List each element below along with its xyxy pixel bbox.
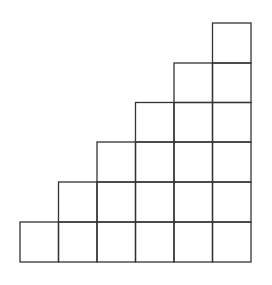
- grid-cell: [59, 222, 98, 262]
- grid-cell: [174, 142, 213, 182]
- grid-cell: [174, 63, 213, 103]
- grid-cell: [213, 23, 252, 63]
- grid-cell: [59, 182, 98, 222]
- grid-cell: [213, 222, 252, 262]
- grid-cell: [97, 142, 136, 182]
- grid-cell: [213, 182, 252, 222]
- grid-cell: [174, 182, 213, 222]
- grid-cell: [174, 103, 213, 143]
- grid-cells: [20, 23, 251, 262]
- grid-cell: [213, 63, 252, 103]
- grid-cell: [136, 222, 175, 262]
- grid-cell: [136, 182, 175, 222]
- grid-cell: [213, 142, 252, 182]
- grid-cell: [97, 222, 136, 262]
- staircase-diagram: [0, 0, 272, 285]
- grid-cell: [20, 222, 59, 262]
- grid-cell: [136, 142, 175, 182]
- grid-cell: [97, 182, 136, 222]
- grid-cell: [174, 222, 213, 262]
- grid-cell: [213, 103, 252, 143]
- grid-cell: [136, 103, 175, 143]
